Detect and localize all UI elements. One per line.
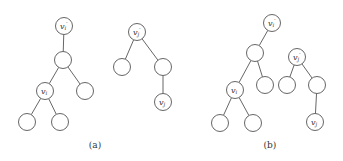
labeled-node: vj′ [129,24,146,41]
node-circle [279,77,296,94]
tree-node [77,83,94,100]
tree-node [257,77,274,94]
tree-edge [49,99,57,115]
panel-caption: (b) [264,140,277,150]
node-circle [245,115,262,132]
tree-edge [302,64,312,78]
tree-node [155,59,172,76]
tree-edge [239,97,249,115]
labeled-node: vj′ [289,49,306,66]
tree-node [279,77,296,94]
tree-node [19,114,36,131]
tree-node [245,115,262,132]
tree-node [114,59,131,76]
tree-diagram-canvas: vi′vivj′vjvi′vivj′vj (a)(b) [0,0,343,161]
node-circle [19,114,36,131]
tree-node [52,114,69,131]
tree-edge [315,93,316,113]
tree-edge [68,67,80,84]
tree-node [212,115,229,132]
node-circle [77,83,94,100]
labeled-node: vi′ [56,18,73,35]
labeled-node: vi′ [264,15,281,32]
edges-layer [31,30,316,115]
node-circle [212,115,229,132]
node-circle [55,52,72,69]
tree-edge [290,65,294,77]
nodes-layer: vi′vivj′vjvi′vivj′vj [19,15,326,132]
panel-caption: (a) [89,140,101,150]
tree-node [247,45,264,62]
node-circle [114,59,131,76]
tree-edge [142,39,158,60]
tree-edge [31,98,40,114]
labeled-node: vi [37,83,54,100]
tree-edge [239,60,251,82]
tree-edge [224,98,232,116]
node-circle [155,59,172,76]
tree-edge [49,67,58,83]
node-circle [247,45,264,62]
tree-edge [259,30,268,45]
tree-node [55,52,72,69]
tree-edge [258,61,263,77]
labeled-node: vj [155,94,172,111]
labeled-node: vj [307,114,324,131]
tree-edge [63,34,64,51]
labeled-node: vi [227,82,244,99]
tree-edge [125,40,133,59]
node-circle [52,114,69,131]
tree-node [309,77,326,94]
captions-layer: (a)(b) [89,140,277,150]
node-circle [309,77,326,94]
node-circle [257,77,274,94]
